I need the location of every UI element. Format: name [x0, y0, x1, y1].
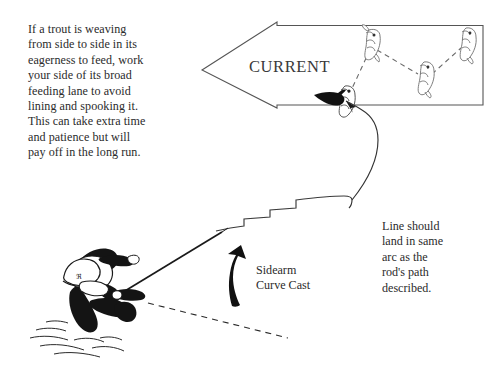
fly-on-water	[314, 90, 346, 106]
arc-note-text: Line should land in same arc as the rod'…	[382, 219, 492, 296]
water-surface-ripples	[30, 321, 124, 357]
fly-line-lower-sweep	[349, 200, 352, 208]
angler-figure: ℜ	[30, 228, 228, 357]
weaving-note-text: If a trout is weaving from side to side …	[28, 22, 208, 161]
trout-lane-middle	[418, 62, 434, 98]
svg-text:ℜ: ℜ	[76, 273, 82, 281]
trout-lane-upper	[362, 25, 380, 62]
rod-path-stepped-line	[216, 196, 352, 231]
sidearm-curve-cast-label: Sidearm Curve Cast	[256, 263, 346, 293]
back-cast-dashed-line	[148, 303, 288, 338]
current-label: CURRENT	[249, 57, 330, 77]
cast-direction-arrow	[228, 245, 246, 307]
fly-line-arc	[346, 101, 378, 200]
trout-lane-right	[460, 28, 476, 64]
illustration-canvas: ℜ	[0, 0, 499, 378]
